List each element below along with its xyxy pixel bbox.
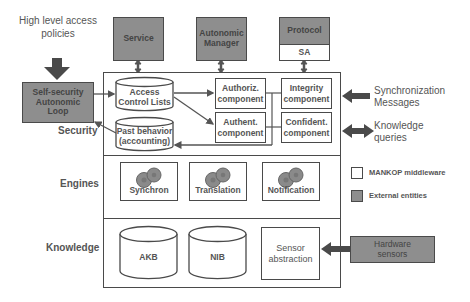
engine-translation: Translation (189, 162, 247, 201)
knowledge-queries-label: Knowledge queries (374, 120, 434, 144)
nib-label: NIB (188, 252, 247, 262)
legend: MANKOP middleware External entities (351, 167, 466, 207)
past-behavior-label: Past behavior (accounting) (115, 126, 174, 146)
engine-label: Translation (190, 185, 246, 195)
service-box: Service (113, 17, 164, 61)
engine-label: Synchron (121, 185, 177, 195)
akb-label: AKB (119, 252, 178, 262)
confident-component: Confident. component (281, 112, 332, 143)
layer-label-security: Security (58, 125, 97, 136)
akb-cylinder: AKB (119, 226, 178, 280)
down-arrow-icon (44, 58, 70, 80)
legend-label-mankop: MANKOP middleware (369, 168, 446, 177)
autonomic-manager-box: Autonomic Manager (196, 17, 247, 61)
sync-messages-label: Synchronization Messages (374, 85, 454, 109)
policies-label: High level access policies (18, 15, 98, 40)
protocol-group: Protocol SA (279, 17, 330, 61)
authoriz-component: Authoriz. component (215, 78, 266, 109)
self-security-loop-box: Self-security Autonomic Loop (22, 82, 94, 123)
past-behavior-cylinder: Past behavior (accounting) (115, 117, 174, 151)
engine-label: Notification (263, 185, 319, 195)
layer-label-knowledge: Knowledge (46, 242, 99, 253)
acl-cylinder: Access Control Lists (115, 77, 174, 111)
layer-label-engines: Engines (60, 178, 99, 189)
nib-cylinder: NIB (188, 226, 247, 280)
engine-synchron: Synchron (120, 162, 178, 201)
integrity-component: Integrity component (281, 78, 332, 109)
acl-label: Access Control Lists (115, 87, 174, 107)
legend-label-external: External entities (369, 191, 427, 200)
hardware-sensors-box: Hardware sensors (350, 236, 435, 263)
authent-component: Authent. component (215, 112, 266, 143)
sensor-abstraction-box: Sensor abstraction (261, 227, 320, 280)
sa-box: SA (279, 44, 330, 61)
legend-swatch-mankop (351, 167, 363, 179)
engine-notification: Notification (262, 162, 320, 201)
layer-divider (103, 218, 341, 219)
layer-divider (103, 155, 341, 156)
protocol-box: Protocol (279, 17, 330, 45)
legend-swatch-external (351, 190, 363, 202)
